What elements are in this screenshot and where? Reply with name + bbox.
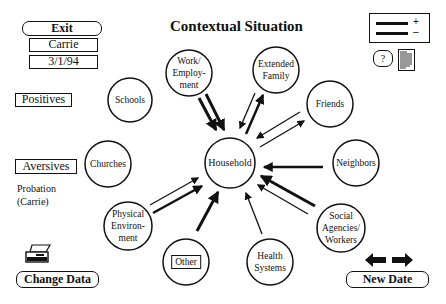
node-label-social-agencies: Social Agencies/ Workers: [322, 210, 360, 246]
ecomap-diagram: [0, 0, 446, 304]
node-label-other[interactable]: Other: [171, 255, 201, 269]
node-label-schools: Schools: [115, 94, 145, 106]
node-label-friends: Friends: [316, 98, 345, 110]
node-label-work: Work/ Employ- ment: [172, 55, 205, 91]
node-label-churches: Churches: [90, 158, 126, 170]
node-label-physical-environment: Physical Environ- ment: [111, 208, 145, 244]
node-label-extended-family: Extended Family: [258, 58, 294, 82]
node-label-household: Household: [208, 157, 251, 169]
node-label-health-systems: Health Systems: [254, 250, 286, 274]
node-label-neighbors: Neighbors: [336, 157, 376, 169]
